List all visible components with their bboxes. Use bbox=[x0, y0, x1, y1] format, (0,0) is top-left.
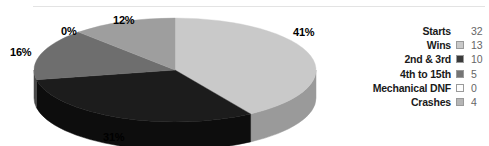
pie-slice-label-wins: 41% bbox=[293, 26, 314, 38]
legend-label: 2nd & 3rd bbox=[362, 53, 456, 65]
legend-label: 4th to 15th bbox=[362, 68, 456, 80]
pie-chart-widget: 12% 0% 16% 41% 31% Starts 32 Wins 13 2nd… bbox=[0, 0, 489, 146]
pie-chart-area: 12% 0% 16% 41% 31% bbox=[0, 8, 360, 146]
legend-row[interactable]: 4th to 15th 5 bbox=[362, 67, 487, 81]
chart-legend: Starts 32 Wins 13 2nd & 3rd 10 4th to 15… bbox=[362, 24, 487, 109]
legend-color-swatch bbox=[456, 55, 464, 63]
top-divider bbox=[33, 6, 485, 7]
legend-row[interactable]: Starts 32 bbox=[362, 24, 487, 38]
legend-row[interactable]: Crashes 4 bbox=[362, 95, 487, 109]
legend-value: 0 bbox=[471, 82, 487, 94]
legend-color-swatch bbox=[456, 84, 464, 92]
legend-label: Starts bbox=[362, 25, 456, 37]
legend-value: 5 bbox=[471, 68, 487, 80]
legend-color-swatch bbox=[456, 98, 464, 106]
pie-slice-label-mechanical-dnf: 0% bbox=[61, 25, 77, 37]
legend-value: 4 bbox=[471, 96, 487, 108]
pie-slice-label-4th-to-15th: 16% bbox=[10, 46, 31, 58]
legend-color-swatch bbox=[456, 27, 464, 35]
legend-row[interactable]: Mechanical DNF 0 bbox=[362, 81, 487, 95]
legend-color-swatch bbox=[456, 41, 464, 49]
legend-value: 10 bbox=[471, 53, 487, 65]
pie-slice-label-crashes: 12% bbox=[113, 14, 134, 26]
legend-value: 13 bbox=[471, 39, 487, 51]
legend-color-swatch bbox=[456, 70, 464, 78]
legend-row[interactable]: Wins 13 bbox=[362, 38, 487, 52]
legend-label: Crashes bbox=[362, 96, 456, 108]
pie-slice-label-2nd-and-3rd: 31% bbox=[103, 131, 124, 143]
legend-value: 32 bbox=[471, 25, 487, 37]
legend-row[interactable]: 2nd & 3rd 10 bbox=[362, 52, 487, 66]
legend-label: Mechanical DNF bbox=[362, 82, 456, 94]
legend-label: Wins bbox=[362, 39, 456, 51]
